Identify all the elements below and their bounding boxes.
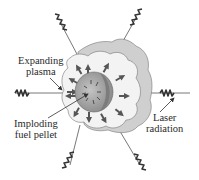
- laser-radiation-label-line2: radiation: [146, 123, 183, 134]
- imploding-pellet-label-line2: fuel pellet: [14, 129, 58, 140]
- imploding-fuel-pellet-label: Imploding fuel pellet: [14, 118, 58, 140]
- expanding-plasma-label: Expanding plasma: [18, 55, 64, 77]
- laser-wave-topleft-icon: [55, 14, 67, 30]
- fuel-pellet: [75, 72, 113, 112]
- laser-fusion-diagram: [0, 0, 199, 180]
- laser-wave-bottomleft-icon: [62, 152, 74, 168]
- laser-wave-bottomright-icon: [134, 154, 146, 170]
- laser-radiation-label-line1: Laser: [146, 112, 183, 123]
- expanding-plasma-label-line1: Expanding: [18, 55, 64, 66]
- laser-radiation-label: Laser radiation: [146, 112, 183, 134]
- laser-wave-topright-icon: [130, 9, 142, 25]
- expanding-plasma-label-line2: plasma: [18, 66, 64, 77]
- imploding-pellet-label-line1: Imploding: [14, 118, 58, 129]
